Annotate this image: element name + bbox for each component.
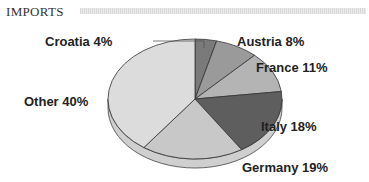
label-france: France 11% [256, 60, 328, 75]
label-italy: Italy 18% [261, 119, 317, 134]
label-germany: Germany 19% [242, 160, 328, 175]
label-croatia: Croatia 4% [45, 34, 113, 49]
label-other: Other 40% [24, 94, 89, 109]
label-austria: Austria 8% [237, 34, 305, 49]
pie-chart: Croatia 4%Austria 8%France 11%Italy 18%G… [0, 0, 369, 182]
